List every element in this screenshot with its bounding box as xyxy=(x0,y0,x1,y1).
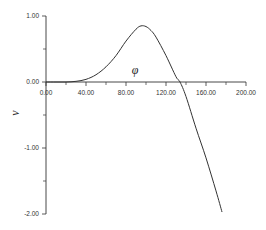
x-tick-label: 160.00 xyxy=(196,89,216,96)
y-axis: 1.000.00-1.00-2.00 xyxy=(24,12,46,217)
x-axis: 0.0040.0080.00120.00160.00200.00 xyxy=(40,82,257,96)
line-chart: 1.000.00-1.00-2.00 0.0040.0080.00120.001… xyxy=(0,0,266,230)
x-tick-label: 120.00 xyxy=(156,89,176,96)
y-tick-label: 0.00 xyxy=(26,78,39,85)
data-line xyxy=(46,26,222,212)
y-tick-label: -1.00 xyxy=(24,144,39,151)
y-axis-title: v xyxy=(8,110,22,116)
x-tick-label: 80.00 xyxy=(118,89,135,96)
x-tick-label: 200.00 xyxy=(236,89,256,96)
y-axis-ticks: 1.000.00-1.00-2.00 xyxy=(24,12,46,217)
x-axis-title: φ xyxy=(132,63,139,77)
y-tick-label: 1.00 xyxy=(26,12,39,19)
y-tick-label: -2.00 xyxy=(24,210,39,217)
x-axis-ticks: 0.0040.0080.00120.00160.00200.00 xyxy=(40,82,257,96)
x-tick-label: 40.00 xyxy=(78,89,95,96)
x-tick-label: 0.00 xyxy=(40,89,53,96)
